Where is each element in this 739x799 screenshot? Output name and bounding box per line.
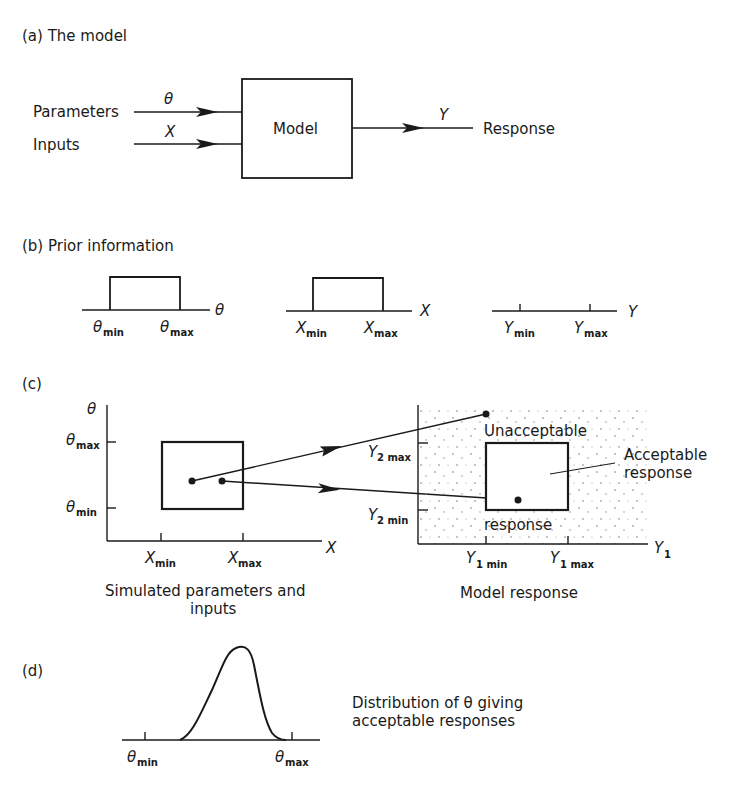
panel-d-label: (d) [22, 662, 43, 680]
svg-text:max: max [76, 440, 100, 451]
svg-text:min: min [514, 328, 535, 339]
unacceptable-label: Unacceptable [484, 422, 587, 440]
acceptable-label-line2: response [624, 464, 692, 482]
theta-max-label: θ [160, 318, 169, 336]
panel-c-label: (c) [22, 375, 42, 393]
theta-min-label: θ [93, 318, 102, 336]
distribution-description-line2: acceptable responses [352, 712, 515, 730]
sampling-region-box [162, 442, 243, 509]
theta-symbol: θ [164, 90, 173, 108]
theta-axis-label: θ [87, 400, 96, 418]
x-prior-axis-label: X [419, 302, 431, 320]
theta-prior-uniform [110, 277, 180, 310]
svg-text:max: max [285, 757, 309, 768]
theta-min-tick-label: θ [66, 498, 75, 516]
svg-text:2 min: 2 min [377, 515, 408, 526]
svg-text:min: min [103, 327, 124, 338]
svg-text:max: max [238, 558, 262, 569]
parameters-label: Parameters [33, 103, 119, 121]
svg-text:1 min: 1 min [476, 559, 507, 570]
svg-text:min: min [155, 558, 176, 569]
model-response-plot: Y 2 max Y 2 min Y 1 Y 1 min Y 1 max Unac… [368, 405, 707, 602]
svg-text:2 max: 2 max [377, 452, 412, 463]
svg-text:min: min [306, 328, 327, 339]
inputs-label: Inputs [33, 136, 80, 154]
svg-text:min: min [76, 507, 97, 518]
y-symbol: Y [439, 106, 450, 124]
svg-text:max: max [374, 328, 398, 339]
x-symbol: X [164, 123, 176, 141]
svg-text:min: min [137, 757, 158, 768]
y-prior-axis-label: Y [628, 303, 639, 321]
panel-b-prior-information: (b) Prior information θ θ min θ max X X … [22, 237, 639, 339]
response-label: Response [483, 120, 555, 138]
left-caption-line2: inputs [190, 600, 237, 618]
acceptable-response-point [515, 497, 522, 504]
unacceptable-response-point [483, 411, 490, 418]
svg-text:max: max [170, 327, 194, 338]
distribution-description-line1: Distribution of θ giving [352, 694, 523, 712]
left-caption-line1: Simulated parameters and [105, 582, 306, 600]
panel-a-label: (a) The model [22, 27, 127, 45]
x-prior-uniform [313, 278, 383, 311]
panel-a-model: (a) The model Parameters θ Inputs X Mode… [22, 27, 555, 178]
panel-c-simulation: (c) θ θ max θ min X X min X max Simulate… [22, 375, 707, 618]
posterior-theta-min-label: θ [127, 748, 136, 766]
right-caption: Model response [460, 584, 578, 602]
unacceptable-response-label: response [484, 516, 552, 534]
theta-max-tick-label: θ [66, 431, 75, 449]
model-label: Model [273, 120, 318, 138]
figure-canvas: (a) The model Parameters θ Inputs X Mode… [0, 0, 739, 799]
x-axis-label: X [325, 539, 337, 557]
svg-text:max: max [584, 328, 608, 339]
svg-text:1 max: 1 max [560, 559, 595, 570]
simulated-parameters-plot: θ θ max θ min X X min X max Simulated pa… [66, 400, 337, 618]
acceptable-label-line1: Acceptable [624, 446, 707, 464]
posterior-distribution-curve [180, 647, 286, 740]
mapping-arrowhead-2-icon [318, 483, 341, 494]
svg-text:1: 1 [664, 549, 671, 560]
theta-prior-axis-label: θ [215, 301, 224, 319]
posterior-theta-max-label: θ [275, 748, 284, 766]
panel-d-posterior: (d) θ min θ max Distribution of θ giving… [22, 647, 523, 768]
panel-b-label: (b) Prior information [22, 237, 174, 255]
